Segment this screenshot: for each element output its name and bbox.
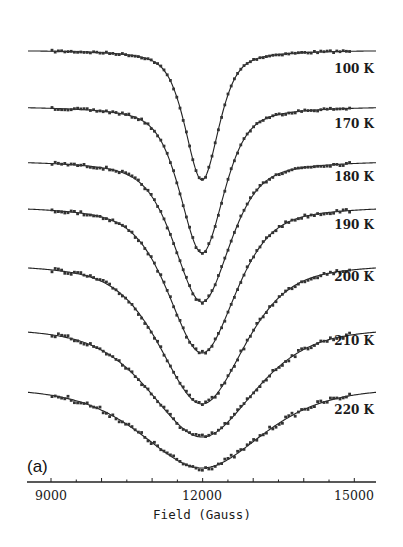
- data-point-marker: [227, 93, 230, 96]
- data-point-marker: [271, 231, 274, 234]
- data-point-marker: [108, 52, 111, 55]
- data-point-marker: [268, 55, 271, 58]
- data-point-marker: [127, 54, 130, 57]
- data-point-marker: [310, 52, 313, 55]
- data-point-marker: [329, 49, 332, 52]
- data-point-marker: [60, 108, 63, 111]
- data-point-marker: [201, 302, 204, 305]
- data-point-marker: [163, 281, 166, 284]
- data-point-marker: [198, 434, 201, 437]
- data-point-marker: [239, 448, 242, 451]
- data-point-marker: [249, 335, 252, 338]
- data-point-marker: [60, 211, 63, 214]
- data-point-marker: [275, 300, 278, 303]
- data-point-marker: [239, 281, 242, 284]
- data-point-marker: [217, 392, 220, 395]
- data-point-marker: [332, 163, 335, 166]
- data-point-marker: [300, 280, 303, 283]
- data-point-marker: [188, 431, 191, 434]
- data-point-marker: [239, 215, 242, 218]
- fit-line: [28, 209, 376, 353]
- data-point-marker: [182, 326, 185, 329]
- data-point-marker: [201, 469, 204, 472]
- data-point-marker: [252, 125, 255, 128]
- data-point-marker: [86, 107, 89, 110]
- data-point-marker: [172, 169, 175, 172]
- data-point-marker: [83, 51, 86, 54]
- data-point-marker: [223, 104, 226, 107]
- data-point-marker: [51, 395, 54, 398]
- data-point-marker: [268, 234, 271, 237]
- data-point-marker: [339, 164, 342, 167]
- data-point-marker: [243, 402, 246, 405]
- data-point-marker: [287, 170, 290, 173]
- data-point-marker: [172, 242, 175, 245]
- data-point-marker: [67, 211, 70, 214]
- data-point-marker: [243, 137, 246, 140]
- data-point-marker: [153, 337, 156, 340]
- data-point-marker: [188, 341, 191, 344]
- data-point-marker: [310, 214, 313, 217]
- data-point-marker: [319, 340, 322, 343]
- data-point-marker: [319, 108, 322, 111]
- data-point-marker: [307, 408, 310, 411]
- data-point-marker: [159, 448, 162, 451]
- data-point-marker: [166, 452, 169, 455]
- data-point-marker: [220, 384, 223, 387]
- data-point-marker: [307, 166, 310, 169]
- data-point-marker: [140, 183, 143, 186]
- data-point-marker: [83, 107, 86, 110]
- data-point-marker: [89, 52, 92, 55]
- data-point-marker: [137, 239, 140, 242]
- data-point-marker: [95, 278, 98, 281]
- data-point-marker: [227, 422, 230, 425]
- data-point-marker: [281, 293, 284, 296]
- data-point-marker: [156, 444, 159, 447]
- data-point-marker: [54, 335, 57, 338]
- data-point-marker: [86, 214, 89, 217]
- data-point-marker: [143, 436, 146, 439]
- data-point-marker: [51, 106, 54, 109]
- data-point-marker: [172, 371, 175, 374]
- data-point-marker: [335, 209, 338, 212]
- data-point-marker: [284, 52, 287, 55]
- data-point-marker: [76, 107, 79, 110]
- data-point-marker: [287, 360, 290, 363]
- data-point-marker: [115, 288, 118, 291]
- data-point-marker: [275, 113, 278, 116]
- data-point-marker: [291, 354, 294, 357]
- data-point-marker: [156, 340, 159, 343]
- panel-label: (a): [27, 457, 48, 476]
- data-point-marker: [214, 465, 217, 468]
- data-point-marker: [86, 51, 89, 54]
- data-point-marker: [150, 393, 153, 396]
- data-point-marker: [99, 406, 102, 409]
- data-point-marker: [179, 193, 182, 196]
- data-point-marker: [163, 218, 166, 221]
- data-point-marker: [335, 163, 338, 166]
- data-point-marker: [243, 209, 246, 212]
- data-point-marker: [300, 217, 303, 220]
- data-point-marker: [294, 112, 297, 115]
- data-point-marker: [214, 338, 217, 341]
- data-point-marker: [115, 170, 118, 173]
- data-point-marker: [70, 210, 73, 213]
- data-point-marker: [124, 423, 127, 426]
- data-point-marker: [268, 178, 271, 181]
- data-point-marker: [275, 368, 278, 371]
- data-point-marker: [191, 344, 194, 347]
- data-point-marker: [86, 344, 89, 347]
- data-point-marker: [108, 169, 111, 172]
- data-point-marker: [147, 253, 150, 256]
- data-point-marker: [105, 412, 108, 415]
- data-point-marker: [323, 50, 326, 53]
- data-point-marker: [255, 389, 258, 392]
- data-point-marker: [156, 270, 159, 273]
- data-point-marker: [281, 172, 284, 175]
- data-point-marker: [51, 209, 54, 212]
- data-point-marker: [79, 108, 82, 111]
- data-point-marker: [281, 54, 284, 57]
- data-point-marker: [70, 163, 73, 166]
- data-point-marker: [63, 162, 66, 165]
- data-point-marker: [191, 398, 194, 401]
